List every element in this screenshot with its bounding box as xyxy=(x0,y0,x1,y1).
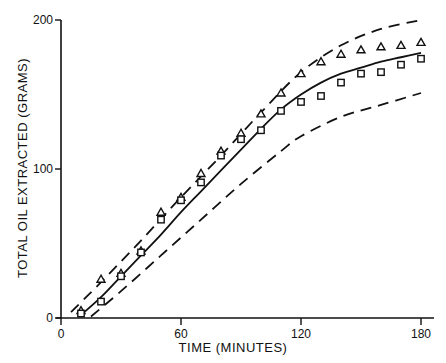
triangle-marker xyxy=(197,169,205,176)
square-marker xyxy=(118,273,124,279)
x-axis-title: TIME (MINUTES) xyxy=(179,340,288,355)
square-marker xyxy=(198,179,204,185)
square-marker xyxy=(138,249,144,255)
triangle-marker xyxy=(417,38,425,45)
square-marker xyxy=(238,136,244,142)
square-marker xyxy=(78,310,84,316)
x-tick-label: 180 xyxy=(411,327,431,341)
x-tick-label: 0 xyxy=(58,327,65,341)
triangle-marker xyxy=(377,43,385,50)
square-marker xyxy=(98,298,104,304)
triangle-marker xyxy=(297,70,305,77)
chart-canvas: 0601201800100200 TIME (MINUTES) TOTAL OI… xyxy=(0,0,446,363)
square-marker xyxy=(298,99,304,105)
square-marker xyxy=(218,152,224,158)
curves xyxy=(71,20,421,317)
square-marker xyxy=(158,216,164,222)
x-tick-label: 120 xyxy=(291,327,311,341)
square-marker xyxy=(398,62,404,68)
triangle-marker xyxy=(317,58,325,65)
y-tick-label: 0 xyxy=(46,311,53,325)
square-marker xyxy=(418,56,424,62)
upper-bound-line xyxy=(71,20,421,312)
square-marker xyxy=(378,69,384,75)
triangle-marker xyxy=(257,110,265,117)
square-marker xyxy=(258,127,264,133)
y-tick-label: 100 xyxy=(33,162,53,176)
square-marker xyxy=(318,93,324,99)
triangle-marker xyxy=(337,50,345,57)
triangle-marker xyxy=(157,208,165,215)
model-fit-line xyxy=(81,53,421,315)
square-marker xyxy=(358,70,364,76)
y-axis-title: TOTAL OIL EXTRACTED (GRAMS) xyxy=(15,58,30,278)
tick-labels: 0601201800100200 xyxy=(33,13,431,341)
x-tick-label: 60 xyxy=(174,327,188,341)
triangle-marker xyxy=(97,275,105,282)
square-marker xyxy=(178,197,184,203)
lower-bound-line xyxy=(91,93,421,317)
square-marker xyxy=(278,108,284,114)
triangle-marker xyxy=(237,129,245,136)
square-marker xyxy=(338,79,344,85)
triangle-marker xyxy=(357,46,365,53)
axes xyxy=(56,20,434,318)
y-tick-label: 200 xyxy=(33,13,53,27)
triangle-marker xyxy=(277,89,285,96)
data-markers xyxy=(77,38,425,316)
triangle-marker xyxy=(397,41,405,48)
